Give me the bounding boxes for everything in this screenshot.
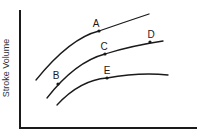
point-a <box>97 29 100 32</box>
point-e <box>105 76 108 79</box>
point-b <box>56 82 59 85</box>
label-a: A <box>93 18 100 29</box>
point-d <box>148 40 151 43</box>
stroke-volume-diagram: Stroke Volume A B C D E <box>0 0 197 135</box>
y-axis-label: Stroke Volume <box>1 39 11 98</box>
label-b: B <box>53 70 60 81</box>
label-c: C <box>100 41 107 52</box>
lower-curve <box>57 74 168 105</box>
label-e: E <box>104 65 111 76</box>
point-c <box>103 52 106 55</box>
label-d: D <box>147 29 154 40</box>
